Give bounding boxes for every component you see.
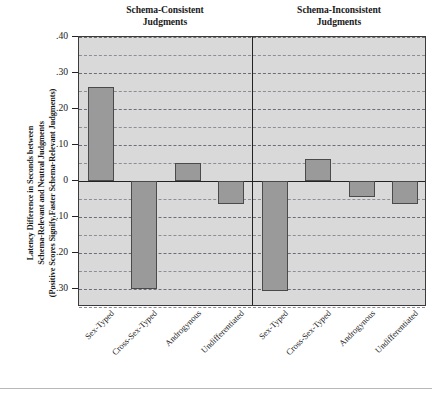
bar [218, 181, 244, 204]
panel-title-schema-consistent: Schema-Consistent Judgments [78, 4, 252, 34]
x-axis-label-text: Cross-Sex-Typed [110, 308, 159, 357]
panel-title-schema-consistent-line-2: Judgments [78, 16, 252, 28]
panel-title-schema-consistent-line-1: Schema-Consistent [78, 4, 252, 16]
panel-title-schema-inconsistent-line-2: Judgments [252, 16, 426, 28]
bar-series [79, 37, 425, 305]
x-axis-labels: Sex-TypedCross-Sex-TypedAndrogynousUndif… [78, 306, 426, 386]
bar [175, 163, 201, 181]
y-axis-tick-label: .40 [34, 31, 68, 41]
bar [131, 181, 157, 289]
x-axis-label-text: Cross-Sex-Typed [284, 308, 333, 357]
x-axis-label-text: Androgynous [337, 308, 377, 348]
plot-area [78, 36, 426, 306]
x-axis-label-text: Androgynous [163, 308, 203, 348]
panel-title-schema-inconsistent-line-1: Schema-Inconsistent [252, 4, 426, 16]
x-axis-label-text: Sex-Typed [257, 308, 290, 341]
bar [349, 181, 375, 197]
x-axis-label-text: Undifferentiated [373, 308, 420, 355]
bar [392, 181, 418, 204]
bar [305, 159, 331, 181]
panel-title-schema-inconsistent: Schema-Inconsistent Judgments [252, 4, 426, 34]
x-axis-label-text: Sex-Typed [83, 308, 116, 341]
bar-chart-figure: Latency Difference in Seconds between Sc… [0, 0, 432, 403]
bottom-rule [0, 388, 432, 389]
bar [88, 87, 114, 181]
panel-titles: Schema-Consistent Judgments Schema-Incon… [78, 4, 426, 34]
y-axis-title: Latency Difference in Seconds between Sc… [0, 58, 50, 328]
x-axis-label-text: Undifferentiated [199, 308, 246, 355]
y-axis-title-line-3: (Positive Scores Signify Faster Schema-R… [46, 58, 60, 328]
